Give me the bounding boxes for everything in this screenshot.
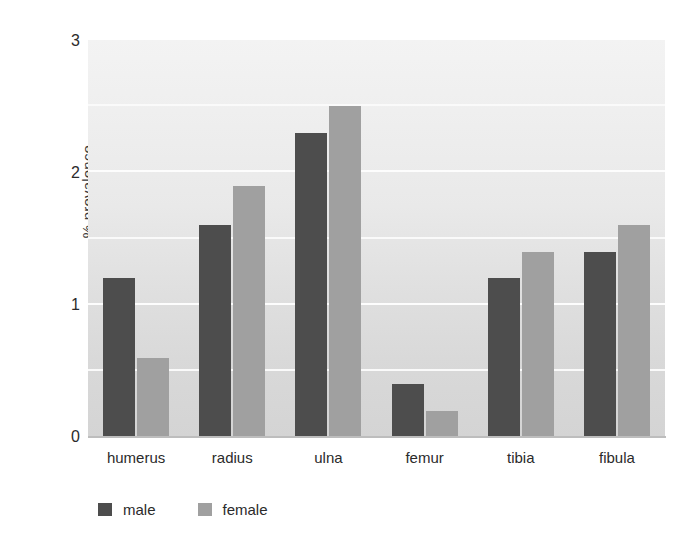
- bar-radius-female: [233, 186, 265, 437]
- gridline-minor: [88, 104, 665, 106]
- bar-tibia-female: [522, 252, 554, 437]
- gridline-major: [88, 303, 665, 305]
- legend-entry-male[interactable]: male: [98, 501, 156, 518]
- x-tick-label-ulna: ulna: [314, 449, 342, 466]
- y-axis-tick-labels: 3 2 1 0: [46, 0, 80, 538]
- bar-radius-male: [199, 225, 231, 437]
- x-tick-label-femur: femur: [405, 449, 443, 466]
- bar-femur-male: [392, 384, 424, 437]
- x-axis-baseline: [88, 436, 666, 438]
- legend-swatch-female-icon: [198, 503, 212, 516]
- bar-fibula-male: [584, 252, 616, 437]
- legend-entry-female[interactable]: female: [198, 501, 268, 518]
- y-tick-label-1: 1: [56, 297, 80, 313]
- y-tick-label-3: 3: [56, 33, 80, 49]
- x-tick-label-tibia: tibia: [507, 449, 535, 466]
- bar-humerus-female: [137, 358, 169, 437]
- gridline-major: [88, 170, 665, 172]
- bar-femur-female: [426, 411, 458, 437]
- legend-label-female: female: [223, 501, 268, 518]
- gridline-minor: [88, 237, 665, 239]
- bar-tibia-male: [488, 278, 520, 437]
- x-tick-label-fibula: fibula: [599, 449, 635, 466]
- bar-humerus-male: [103, 278, 135, 437]
- legend-label-male: male: [123, 501, 156, 518]
- legend-swatch-male-icon: [98, 503, 112, 516]
- x-tick-label-humerus: humerus: [107, 449, 165, 466]
- bar-ulna-female: [329, 106, 361, 437]
- bar-ulna-male: [295, 133, 327, 437]
- gridline-minor: [88, 369, 665, 371]
- x-tick-label-radius: radius: [212, 449, 253, 466]
- chart-legend: male female: [98, 500, 268, 518]
- y-tick-label-2: 2: [56, 165, 80, 181]
- bar-fibula-female: [618, 225, 650, 437]
- y-tick-label-0: 0: [56, 429, 80, 445]
- plot-area: [88, 40, 665, 437]
- bar-chart-figure: % prevalence 3 2 1 0 humerusradiusulnafe…: [0, 0, 695, 538]
